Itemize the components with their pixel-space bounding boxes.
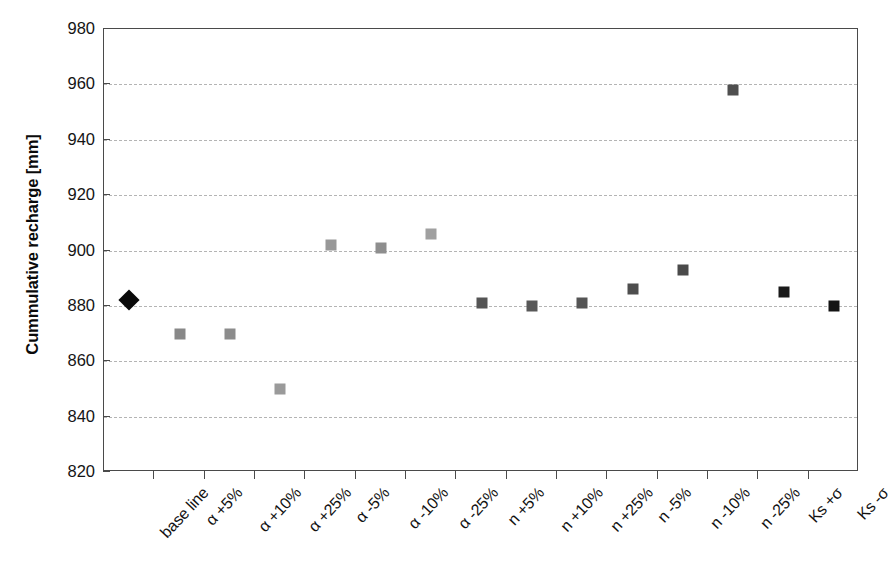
x-tick-label: α -5%	[352, 484, 393, 526]
y-tick-label: 900	[0, 240, 103, 259]
data-point-marker	[476, 298, 487, 309]
data-point-marker	[627, 284, 638, 295]
x-tick-mark	[606, 471, 607, 479]
y-tick-label: 980	[0, 19, 103, 38]
x-tick-mark	[254, 471, 255, 479]
y-tick-label: 860	[0, 351, 103, 370]
data-point-marker	[174, 328, 185, 339]
x-tick-mark	[556, 471, 557, 479]
x-tick-label: base line	[157, 484, 213, 542]
x-tick-mark	[304, 471, 305, 479]
x-tick-mark	[204, 471, 205, 479]
x-tick-mark	[405, 471, 406, 479]
y-tick-label: 880	[0, 295, 103, 314]
gridline	[104, 84, 857, 85]
y-tick-label: 920	[0, 185, 103, 204]
x-tick-label: n -5%	[653, 484, 694, 526]
x-tick-label: α -10%	[405, 484, 452, 533]
x-tick-mark	[707, 471, 708, 479]
data-point-marker	[778, 287, 789, 298]
x-tick-label: α +5%	[202, 484, 246, 529]
x-tick-label: Ks +σ	[805, 484, 846, 527]
gridline	[104, 140, 857, 141]
x-tick-label: n -10%	[707, 484, 754, 532]
data-point-marker	[224, 328, 235, 339]
data-point-marker	[375, 242, 386, 253]
data-point-marker	[828, 300, 839, 311]
data-point-marker	[677, 264, 688, 275]
x-tick-mark	[757, 471, 758, 479]
x-tick-label: Ks -σ	[854, 484, 892, 524]
y-tick-label: 820	[0, 462, 103, 481]
x-tick-label: n +10%	[557, 484, 607, 535]
y-tick-mark	[103, 360, 110, 361]
y-tick-mark	[103, 139, 110, 140]
y-tick-mark	[103, 471, 110, 472]
y-tick-mark	[103, 28, 110, 29]
data-point-marker	[426, 228, 437, 239]
x-tick-mark	[808, 471, 809, 479]
x-tick-mark	[506, 471, 507, 479]
x-tick-mark	[153, 471, 154, 479]
x-tick-mark	[355, 471, 356, 479]
y-tick-label: 840	[0, 406, 103, 425]
y-tick-mark	[103, 305, 110, 306]
x-tick-label: n -25%	[757, 484, 804, 532]
plot-area	[103, 28, 858, 471]
data-point-marker	[275, 383, 286, 394]
gridline	[104, 251, 857, 252]
gridline	[104, 195, 857, 196]
data-point-marker	[526, 300, 537, 311]
x-tick-label: n +25%	[607, 484, 657, 535]
x-tick-label: α -25%	[455, 484, 502, 533]
data-point-marker	[577, 298, 588, 309]
x-tick-mark	[657, 471, 658, 479]
data-point-marker	[728, 84, 739, 95]
y-tick-label: 940	[0, 129, 103, 148]
y-tick-mark	[103, 194, 110, 195]
data-point-marker	[325, 239, 336, 250]
x-tick-label: α +10%	[255, 484, 305, 536]
y-tick-mark	[103, 416, 110, 417]
gridline	[104, 361, 857, 362]
y-tick-mark	[103, 250, 110, 251]
x-tick-label: α +25%	[305, 484, 355, 536]
x-tick-label: n +5%	[504, 484, 548, 529]
x-tick-mark	[455, 471, 456, 479]
y-tick-label: 960	[0, 74, 103, 93]
gridline	[104, 417, 857, 418]
y-tick-mark	[103, 83, 110, 84]
data-point-marker	[119, 290, 140, 311]
